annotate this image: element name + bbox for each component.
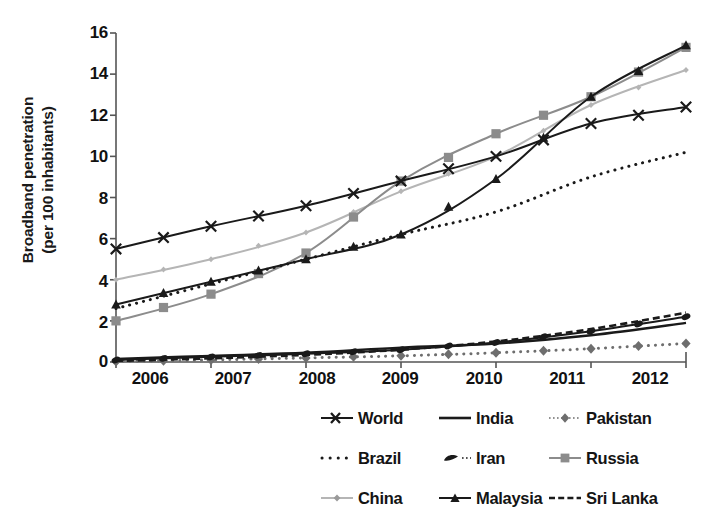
data-point (208, 256, 214, 262)
data-series-group (111, 40, 692, 366)
data-point (588, 102, 594, 108)
legend-label-malaysia: Malaysia (476, 489, 542, 508)
x-tick-marks (116, 362, 686, 368)
legend-item-brazil[interactable]: Brazil (320, 449, 438, 468)
data-point (539, 346, 548, 356)
axes (110, 33, 686, 368)
data-point (634, 341, 643, 351)
data-point (349, 212, 358, 221)
diamond-dotted-line-icon (548, 410, 582, 426)
legend-item-russia[interactable]: Russia (548, 449, 683, 468)
legend-item-china[interactable]: China (320, 489, 438, 508)
data-point (159, 303, 168, 312)
legend-item-india[interactable]: India (438, 409, 548, 428)
legend-item-pakistan[interactable]: Pakistan (548, 409, 683, 428)
legend-item-malaysia[interactable]: Malaysia (438, 489, 548, 508)
data-point (113, 277, 119, 283)
data-point (444, 202, 454, 211)
legend-item-iran[interactable]: Iran (438, 449, 548, 468)
data-point (111, 316, 120, 325)
legend-label-sri-lanka: Sri Lanka (586, 489, 658, 508)
dotted-line-icon (320, 450, 354, 466)
legend-label-world: World (358, 409, 403, 428)
data-point (444, 349, 453, 359)
filled-marker-line-icon (438, 450, 472, 466)
legend-label-india: India (476, 409, 513, 428)
square-line-icon (548, 450, 582, 466)
legend: World India Pakistan Brazil (320, 398, 700, 518)
data-point (491, 151, 501, 161)
legend-label-russia: Russia (586, 449, 638, 468)
triangle-line-icon (438, 490, 472, 506)
legend-label-iran: Iran (476, 449, 505, 468)
series-malaysia (111, 40, 691, 308)
legend-item-sri-lanka[interactable]: Sri Lanka (548, 489, 683, 508)
data-point (683, 67, 689, 73)
data-point (681, 338, 690, 348)
data-point (539, 111, 548, 120)
legend-label-brazil: Brazil (358, 449, 401, 468)
solid-line-icon (438, 410, 472, 426)
data-point (491, 348, 500, 358)
data-point (491, 129, 500, 138)
legend-label-pakistan: Pakistan (586, 409, 651, 428)
series-china (113, 67, 689, 283)
data-point (206, 290, 215, 299)
data-point (303, 229, 309, 235)
marker-x-line-icon (320, 410, 354, 426)
data-point (398, 188, 404, 194)
data-point (443, 342, 454, 351)
plot-canvas (0, 0, 710, 400)
data-point (586, 344, 595, 354)
y-tick-marks (110, 33, 116, 362)
data-point (444, 153, 453, 162)
data-point (161, 266, 167, 272)
legend-item-world[interactable]: World (320, 409, 438, 428)
legend-label-china: China (358, 489, 402, 508)
broadband-penetration-line-chart: Broadband penetration (per 100 inhabitan… (0, 0, 710, 531)
small-diamond-line-icon (320, 490, 354, 506)
series-russia (111, 43, 690, 326)
dashed-line-icon (548, 490, 582, 506)
data-point (491, 338, 502, 347)
